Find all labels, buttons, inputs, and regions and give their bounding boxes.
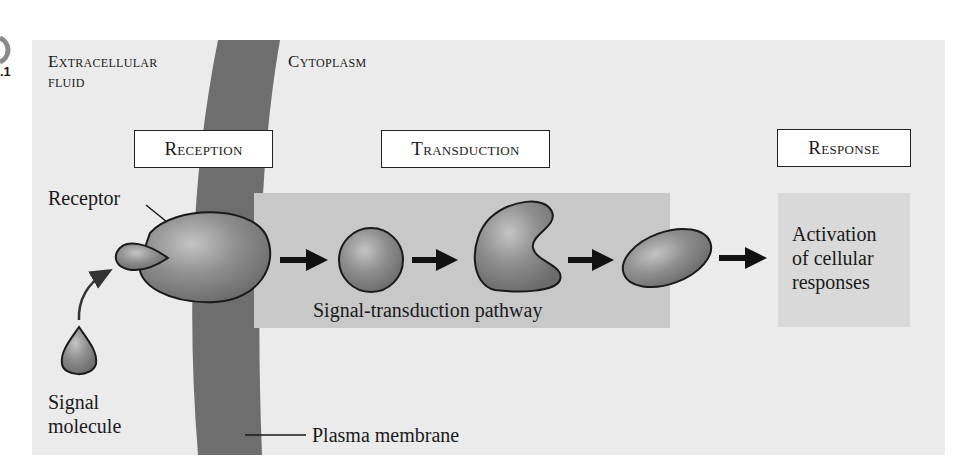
cytoplasm-label: Cytoplasm: [288, 52, 367, 72]
plasma-membrane-label: Plasma membrane: [312, 423, 459, 447]
receptor-label: Receptor: [48, 186, 120, 210]
response-description: Activation of cellular responses: [792, 222, 876, 294]
extracellular-fluid-label: Extracellular fluid: [48, 52, 158, 92]
relay-molecule-1-icon: [339, 228, 403, 292]
stage-response: Response: [777, 129, 911, 167]
pathway-label: Signal-transduction pathway: [313, 298, 542, 322]
stage-reception: Reception: [134, 130, 273, 168]
stage-transduction: Transduction: [381, 130, 550, 168]
signal-molecule-icon: [62, 327, 97, 374]
signal-molecule-label: Signal molecule: [48, 390, 121, 438]
